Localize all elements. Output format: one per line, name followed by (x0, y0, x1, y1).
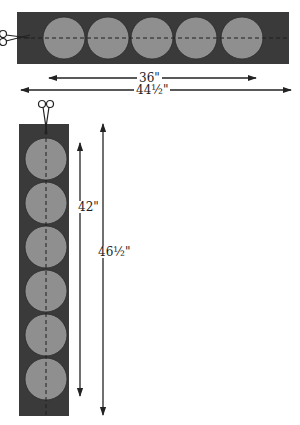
vertical-fabric-strip (19, 124, 69, 416)
dimension-label-44-half: 44½" (134, 84, 170, 96)
fabric-cutting-diagram (0, 0, 300, 425)
dimension-label-46-half: 46½" (96, 246, 132, 258)
dimension-label-42: 42" (76, 201, 101, 213)
horizontal-fabric-strip (17, 12, 289, 64)
